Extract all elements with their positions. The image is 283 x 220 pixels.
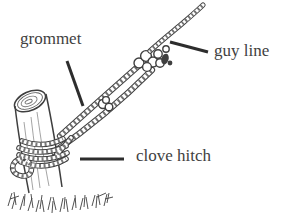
- label-clove-hitch: clove hitch: [136, 147, 211, 166]
- grass-tufts: [8, 192, 113, 213]
- grass-strokes: [8, 192, 113, 213]
- knot-dark-end: [168, 61, 173, 66]
- label-guy-line: guy line: [214, 42, 269, 61]
- stake-top-rim: [11, 86, 49, 116]
- knot-diagram-canvas: grommet guy line clove hitch: [0, 0, 283, 220]
- stake-ring-2: [20, 94, 39, 109]
- stake-ring-1: [15, 89, 45, 113]
- grommet-pointer-line: [67, 61, 83, 106]
- stake-top-rings: [11, 86, 49, 116]
- label-grommet: grommet: [20, 30, 81, 49]
- guy-line-pointer-line: [170, 42, 208, 52]
- stake-ring-3: [24, 98, 32, 104]
